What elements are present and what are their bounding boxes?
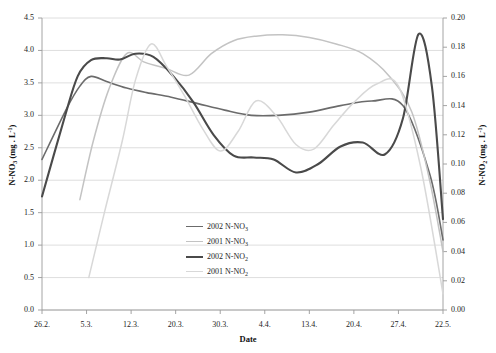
y-axis-right-tick-label: 0.02 xyxy=(451,276,485,285)
y-axis-left-tick-label: 0.5 xyxy=(4,273,34,282)
y-axis-left-tick-label: 3.5 xyxy=(4,78,34,87)
y-axis-right-tick-label: 0.16 xyxy=(451,71,485,80)
legend-line-swatch-icon xyxy=(186,271,203,272)
legend-item-label: 2001 N-NO2 xyxy=(207,267,248,277)
x-axis-tick-label: 26.2. xyxy=(19,320,65,329)
y-axis-right-tick-label: 0.18 xyxy=(451,42,485,51)
legend-item[interactable]: 2001 N-NO3 xyxy=(186,234,290,249)
x-axis-tick-label: 30.3. xyxy=(197,320,243,329)
y-axis-right-title: N-NO2 (mg . L-1) xyxy=(477,105,487,205)
chart-legend: 2002 N-NO32001 N-NO32002 N-NO22001 N-NO2 xyxy=(186,219,290,279)
legend-item[interactable]: 2002 N-NO2 xyxy=(186,249,290,264)
x-axis-tick-label: 27.4. xyxy=(375,320,421,329)
series-line-2002-n-no2 xyxy=(42,34,443,220)
y-axis-left-tick-label: 0.0 xyxy=(4,305,34,314)
x-axis-tick-label: 20.4. xyxy=(331,320,377,329)
legend-item-label: 2002 N-NO3 xyxy=(207,222,248,232)
y-axis-right-title-main: N-NO xyxy=(477,164,487,186)
y-axis-right-tick-label: 0.00 xyxy=(451,305,485,314)
y-axis-left-tick-label: 4.5 xyxy=(4,13,34,22)
chart-container: 0.00.51.01.52.02.53.03.54.04.5 0.000.020… xyxy=(0,0,496,353)
y-axis-right-title-superscript: -1 xyxy=(477,127,483,132)
y-axis-right-title-unit: (mg . L xyxy=(477,132,487,160)
y-axis-right-tick-label: 0.20 xyxy=(451,13,485,22)
y-axis-left-title-main: N-NO xyxy=(7,164,17,186)
y-axis-left-title-subscript: 3 xyxy=(12,161,18,164)
legend-line-swatch-icon xyxy=(186,226,203,227)
y-axis-left-title-unit: (mg . L xyxy=(7,132,17,160)
y-axis-left-tick-label: 1.5 xyxy=(4,208,34,217)
x-axis-tick-label: 4.4. xyxy=(242,320,288,329)
y-axis-right-tick-label: 0.06 xyxy=(451,217,485,226)
x-axis-title: Date xyxy=(0,334,496,344)
x-axis-tick-label: 20.3. xyxy=(153,320,199,329)
legend-line-swatch-icon xyxy=(186,241,203,242)
x-axis-tick-label: 5.3. xyxy=(64,320,110,329)
legend-item[interactable]: 2001 N-NO2 xyxy=(186,264,290,279)
legend-item-label: 2002 N-NO2 xyxy=(207,252,248,262)
y-axis-left-title-superscript: -1 xyxy=(7,127,13,132)
x-axis-tick-label: 12.3. xyxy=(108,320,154,329)
chart-plot-area xyxy=(0,0,496,353)
legend-line-swatch-icon xyxy=(186,256,203,258)
x-axis-tick-label: 22.5. xyxy=(420,320,466,329)
y-axis-right-title-subscript: 2 xyxy=(482,161,488,164)
y-axis-left-tick-label: 1.0 xyxy=(4,240,34,249)
y-axis-left-tick-label: 4.0 xyxy=(4,45,34,54)
y-axis-right-tick-label: 0.04 xyxy=(451,247,485,256)
legend-item[interactable]: 2002 N-NO3 xyxy=(186,219,290,234)
y-axis-left-title: N-NO3 (mg . L-1) xyxy=(7,105,17,205)
legend-item-label: 2001 N-NO3 xyxy=(207,237,248,247)
x-axis-tick-label: 13.4. xyxy=(286,320,332,329)
